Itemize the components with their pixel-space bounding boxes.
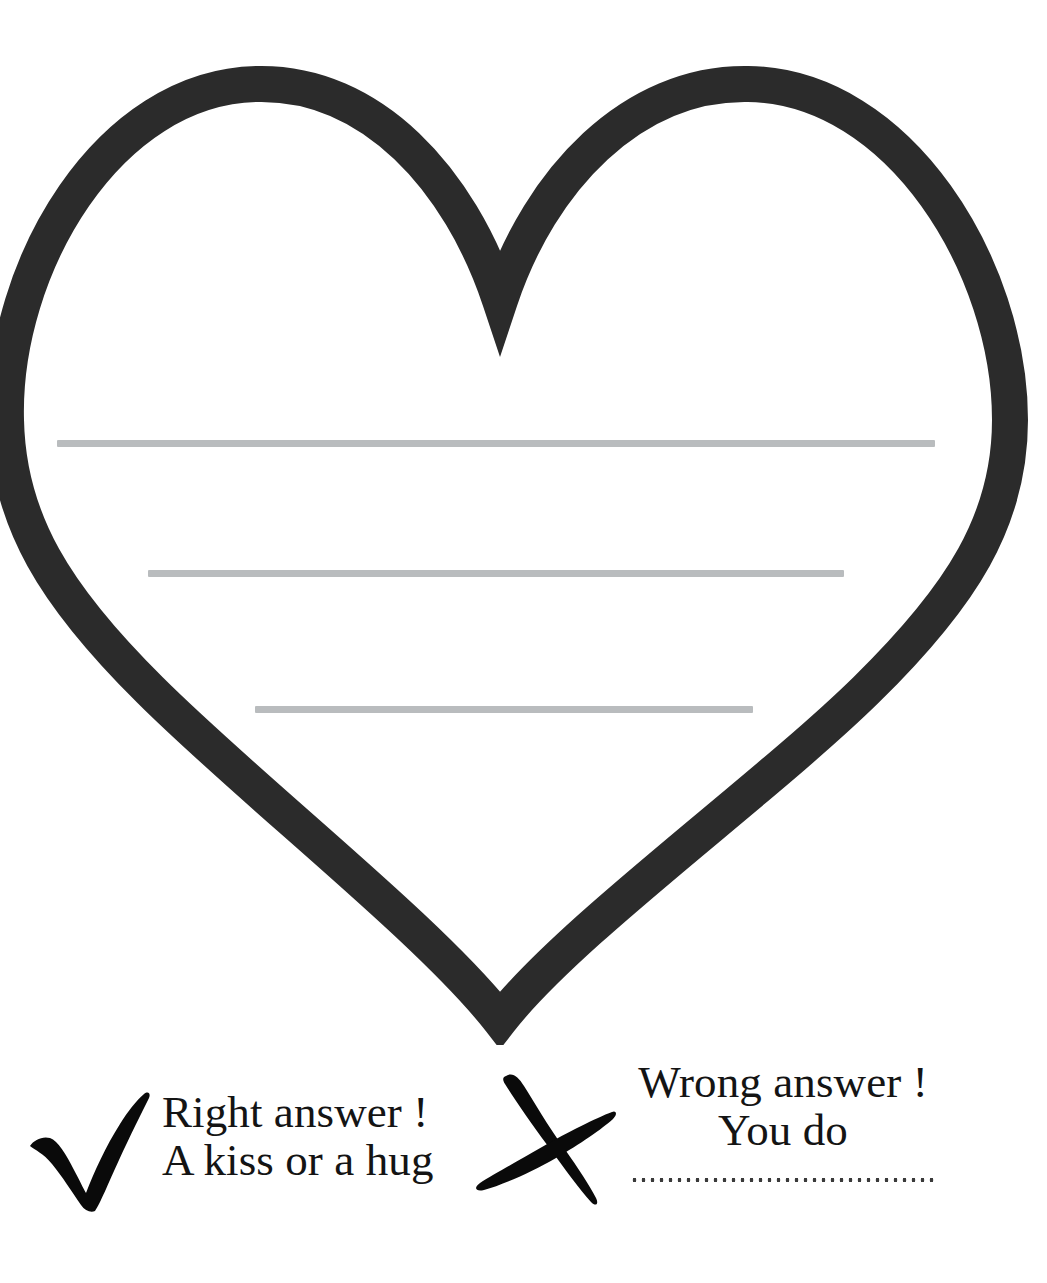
legend-wrong-text: Wrong answer ! You do [630, 1058, 936, 1184]
legend-correct-line1: Right answer ! [162, 1088, 434, 1136]
legend-item-correct: Right answer ! A kiss or a hug [24, 1066, 434, 1212]
answer-legend-row: Right answer ! A kiss or a hug Wrong ans… [0, 1048, 1047, 1283]
legend-wrong-line1: Wrong answer ! [630, 1058, 936, 1106]
legend-wrong-fill-in-line[interactable] [630, 1176, 936, 1184]
worksheet-page: Right answer ! A kiss or a hug Wrong ans… [0, 0, 1047, 1283]
legend-item-wrong: Wrong answer ! You do [468, 1054, 936, 1206]
heart-writing-line-3[interactable] [255, 706, 753, 713]
heart-outline-icon [0, 0, 1047, 1045]
cross-mark-icon [468, 1066, 618, 1206]
heart-writing-line-1[interactable] [57, 440, 935, 447]
legend-correct-text: Right answer ! A kiss or a hug [162, 1088, 434, 1184]
legend-wrong-line2: You do [630, 1106, 936, 1154]
heart-writing-line-2[interactable] [148, 570, 844, 577]
legend-correct-line2: A kiss or a hug [162, 1136, 434, 1184]
heart-container [0, 0, 1047, 1045]
check-mark-icon [24, 1080, 152, 1212]
